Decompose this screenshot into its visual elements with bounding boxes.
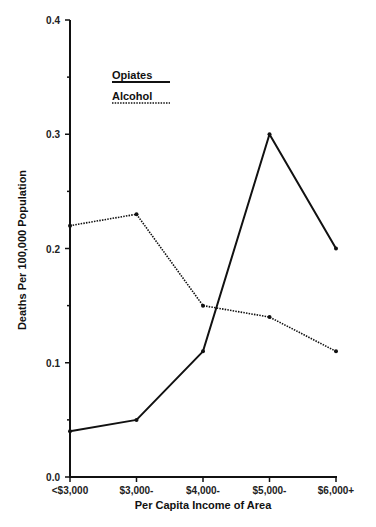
legend-label-alcohol: Alcohol: [112, 90, 152, 102]
y-tick-label: 0.0: [46, 472, 60, 483]
x-tick-label: $5,000-: [253, 485, 287, 496]
y-tick-label: 0.3: [46, 129, 60, 140]
data-point-alcohol: [135, 212, 139, 216]
legend: Opiates Alcohol: [112, 69, 170, 103]
x-tick-label: <$3,000: [52, 485, 89, 496]
data-point-alcohol: [334, 349, 338, 353]
x-ticks: <$3,000$3,000-$4,000-$5,000-$6,000+: [52, 477, 355, 496]
data-point-alcohol: [201, 304, 205, 308]
series-line-alcohol: [70, 214, 336, 351]
data-point-opiates: [334, 247, 338, 251]
series-layer: [68, 132, 338, 433]
data-point-opiates: [201, 349, 205, 353]
y-tick-label: 0.4: [46, 15, 60, 26]
x-axis-title: Per Capita Income of Area: [135, 499, 272, 511]
data-point-opiates: [268, 132, 272, 136]
data-point-alcohol: [268, 315, 272, 319]
y-tick-label: 0.2: [46, 244, 60, 255]
data-point-opiates: [68, 429, 72, 433]
data-point-alcohol: [68, 224, 72, 228]
y-axis-title: Deaths Per 100,000 Population: [16, 170, 28, 330]
legend-label-opiates: Opiates: [112, 69, 152, 81]
x-tick-label: $4,000-: [186, 485, 220, 496]
y-tick-label: 0.1: [46, 358, 60, 369]
series-line-opiates: [70, 134, 336, 431]
y-ticks: 0.00.10.20.30.4: [46, 15, 70, 483]
line-chart: 0.00.10.20.30.4 <$3,000$3,000-$4,000-$5,…: [0, 0, 376, 527]
data-point-opiates: [135, 418, 139, 422]
x-tick-label: $3,000-: [120, 485, 154, 496]
x-tick-label: $6,000+: [318, 485, 355, 496]
